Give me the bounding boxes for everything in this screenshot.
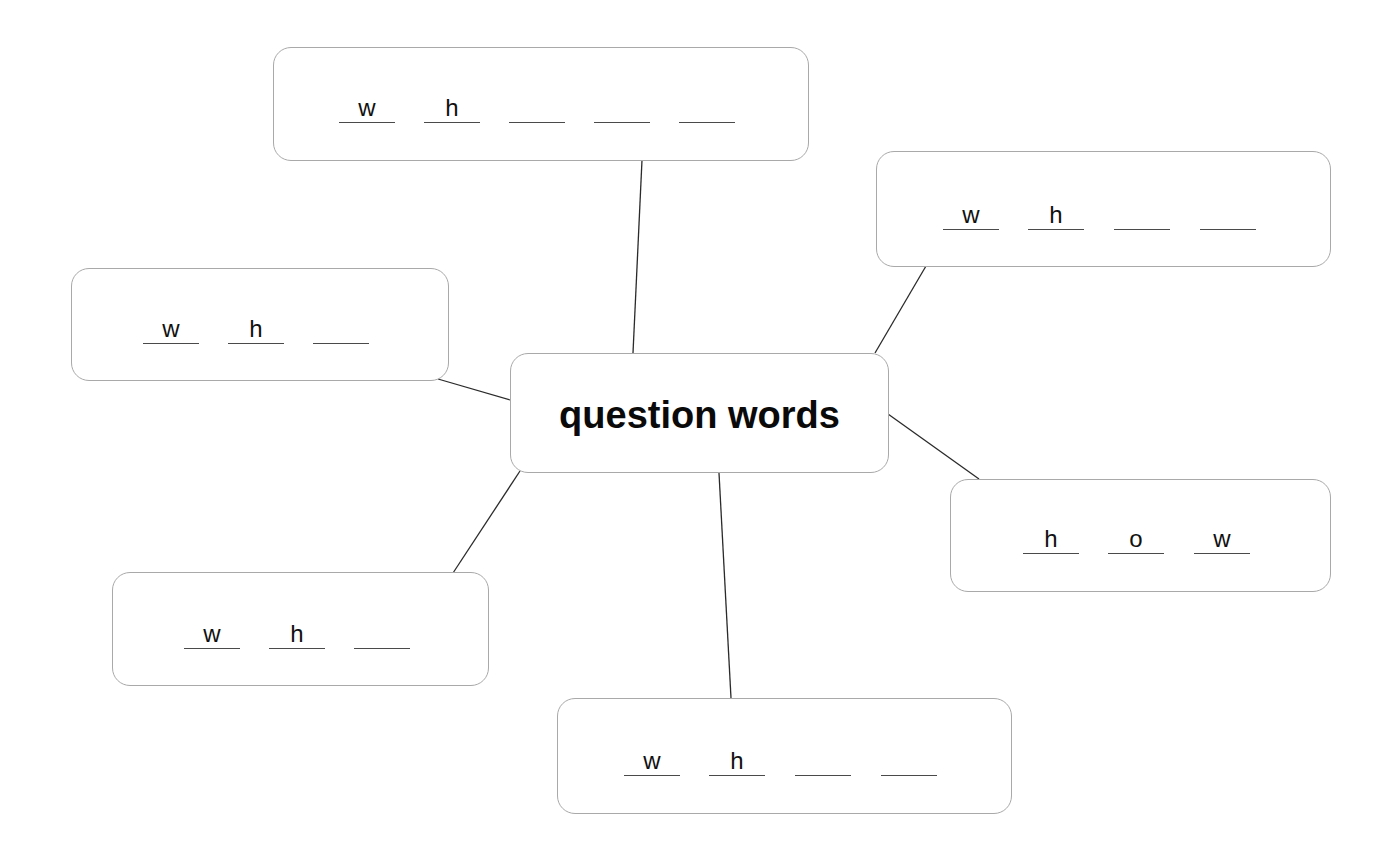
letter-slot[interactable]: h — [269, 619, 325, 649]
letter-slot[interactable]: o — [1108, 524, 1164, 554]
letter-slot[interactable] — [354, 619, 410, 649]
letter-slot[interactable] — [594, 93, 650, 123]
branch-left: w h — [71, 268, 449, 381]
center-node: question words — [510, 353, 889, 473]
branch-top-right: w h — [876, 151, 1331, 267]
letter-slot[interactable]: h — [1028, 200, 1084, 230]
letter-slot[interactable]: h — [424, 93, 480, 123]
branch-right: h o w — [950, 479, 1331, 592]
branch-bottom-left: w h — [112, 572, 489, 686]
letter-slot[interactable] — [1114, 200, 1170, 230]
branch-bottom: w h — [557, 698, 1012, 814]
letter-slot[interactable] — [1200, 200, 1256, 230]
letter-slot[interactable]: w — [184, 619, 240, 649]
letter-slot[interactable]: w — [1194, 524, 1250, 554]
letter-slot[interactable]: w — [143, 314, 199, 344]
letter-slot[interactable]: h — [228, 314, 284, 344]
connector-bottom-left — [453, 471, 520, 573]
connector-top-right — [875, 266, 926, 353]
connector-top — [633, 160, 642, 353]
letter-slot[interactable] — [679, 93, 735, 123]
letter-slot[interactable] — [509, 93, 565, 123]
letter-slot[interactable]: w — [339, 93, 395, 123]
center-title: question words — [559, 394, 840, 437]
letter-slot[interactable]: h — [1023, 524, 1079, 554]
letter-slot[interactable] — [881, 746, 937, 776]
letter-slot[interactable] — [795, 746, 851, 776]
letter-slot[interactable]: w — [943, 200, 999, 230]
branch-top: w h — [273, 47, 809, 161]
letter-slot[interactable] — [313, 314, 369, 344]
letter-slot[interactable]: h — [709, 746, 765, 776]
letter-slot[interactable]: w — [624, 746, 680, 776]
connector-bottom — [719, 473, 731, 698]
connector-right — [888, 414, 979, 479]
connector-left — [438, 379, 510, 400]
